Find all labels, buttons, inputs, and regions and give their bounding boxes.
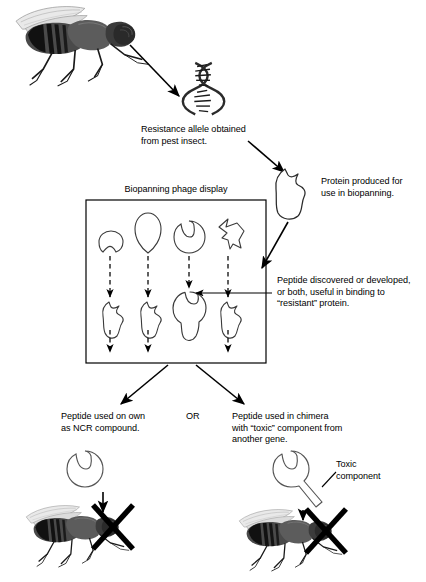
phage-complex-2 bbox=[141, 302, 161, 338]
arrow-icon bbox=[121, 365, 168, 404]
phage-complex-1 bbox=[103, 302, 123, 338]
toxic-component-label: Toxic component bbox=[336, 459, 416, 482]
protein-produced-label: Protein produced for use in biopanning. bbox=[321, 176, 425, 199]
biopanning-box-title: Biopanning phage display bbox=[86, 184, 266, 196]
peptide-chimera-label: Peptide used in chimera with “toxic” com… bbox=[232, 411, 372, 446]
peptide-on-own-label: Peptide used on own as NCR compound. bbox=[61, 411, 181, 434]
arrow-icon bbox=[130, 45, 179, 96]
phage-peptide-3 bbox=[174, 221, 205, 253]
arrow-icon bbox=[196, 365, 244, 404]
phage-peptide-2 bbox=[135, 213, 161, 253]
fly-icon bbox=[16, 7, 149, 86]
peptide-icon bbox=[67, 451, 103, 487]
peptide-discovered-label: Peptide discovered or developed, or both… bbox=[277, 275, 425, 310]
fly-icon bbox=[239, 510, 342, 572]
phage-complex-bound-3 bbox=[173, 292, 206, 340]
chimera-icon bbox=[273, 451, 322, 507]
diagram-canvas: Resistance allele obtained from pest ins… bbox=[0, 0, 426, 582]
phage-complex-4 bbox=[221, 302, 241, 338]
dna-helix-icon bbox=[183, 63, 224, 115]
fly-icon bbox=[26, 506, 129, 568]
or-connector-label: OR bbox=[186, 411, 218, 423]
phage-peptide-4 bbox=[219, 219, 244, 249]
phage-peptide-1 bbox=[99, 231, 123, 252]
leader-line bbox=[322, 472, 336, 487]
protein-icon bbox=[276, 169, 305, 219]
resistance-allele-label: Resistance allele obtained from pest ins… bbox=[141, 124, 269, 147]
